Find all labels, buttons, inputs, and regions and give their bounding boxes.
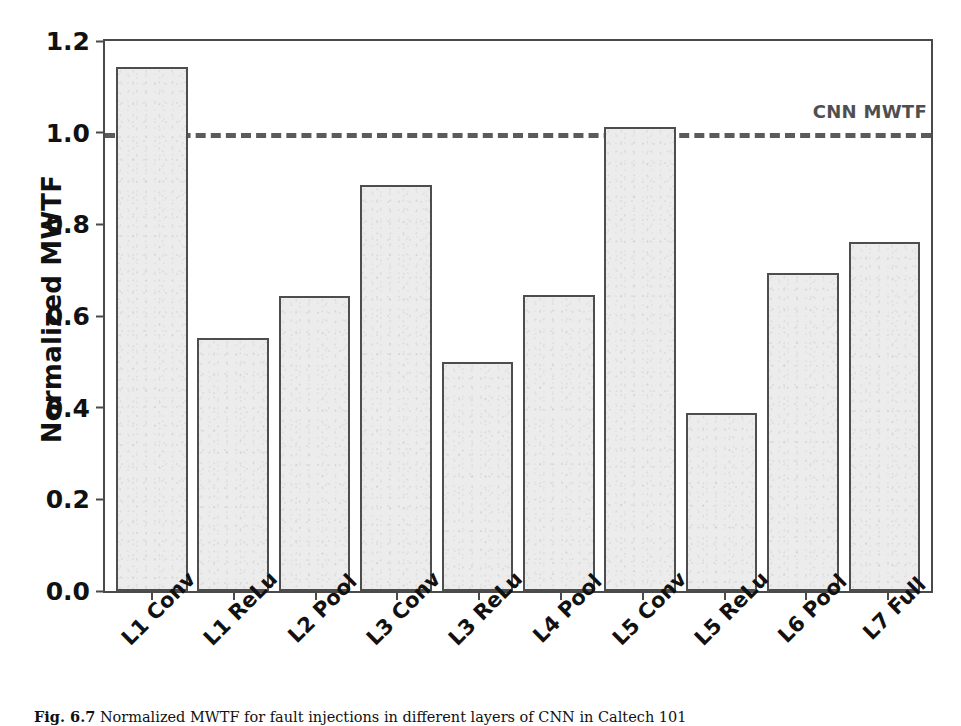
y-axis-tick-label: 1.0 (46, 118, 96, 147)
bar[interactable] (523, 295, 595, 591)
y-axis-tick: 0.0 (46, 577, 105, 606)
bar-series (105, 41, 931, 591)
caption-figure-number: Fig. 6.7 (34, 708, 95, 725)
y-axis-tick-mark (96, 132, 105, 134)
caption-text: Normalized MWTF for fault injections in … (100, 709, 687, 725)
y-axis-tick-label: 1.2 (46, 27, 96, 56)
plot-area: 0.00.20.40.60.81.01.2 CNN MWTF (103, 39, 933, 593)
bar-slot (192, 41, 273, 591)
y-axis-tick-label: 0.0 (46, 577, 96, 606)
y-axis-tick-mark (96, 40, 105, 42)
y-axis-tick-label: 0.8 (46, 210, 96, 239)
bar-slot (437, 41, 518, 591)
y-axis-tick-mark (96, 590, 105, 592)
bar-slot (681, 41, 762, 591)
figure-container: Normalized MWTF 0.00.20.40.60.81.01.2 CN… (0, 0, 961, 726)
x-axis-labels: L1 ConvL1 ReLuL2 PoolL3 ConvL3 ReLuL4 Po… (103, 600, 933, 700)
bar[interactable] (767, 273, 839, 591)
bar[interactable] (686, 413, 758, 591)
bar-slot (111, 41, 192, 591)
bar-slot (274, 41, 355, 591)
bar[interactable] (604, 127, 676, 591)
y-axis-tick-mark (96, 223, 105, 225)
bar-slot (355, 41, 436, 591)
bar-slot (762, 41, 843, 591)
y-axis-tick-mark (96, 407, 105, 409)
y-axis-tick: 0.4 (46, 393, 105, 422)
y-axis-tick: 1.0 (46, 118, 105, 147)
y-axis-tick: 0.8 (46, 210, 105, 239)
bar-slot (518, 41, 599, 591)
y-axis-tick: 0.6 (46, 302, 105, 331)
y-axis-tick-label: 0.6 (46, 302, 96, 331)
bar-slot (844, 41, 925, 591)
figure-caption: Fig. 6.7 Normalized MWTF for fault injec… (34, 707, 934, 726)
plot-inner: 0.00.20.40.60.81.01.2 CNN MWTF (105, 41, 931, 591)
bar[interactable] (116, 67, 188, 591)
y-axis-tick-label: 0.4 (46, 393, 96, 422)
bar-slot (599, 41, 680, 591)
bar[interactable] (279, 296, 351, 591)
bar[interactable] (197, 338, 269, 591)
y-axis-tick: 0.2 (46, 485, 105, 514)
y-axis-tick: 1.2 (46, 27, 105, 56)
bar[interactable] (360, 185, 432, 591)
y-axis-tick-label: 0.2 (46, 485, 96, 514)
bar[interactable] (849, 242, 921, 591)
y-axis-tick-mark (96, 498, 105, 500)
y-axis-tick-mark (96, 315, 105, 317)
bar[interactable] (442, 362, 514, 591)
